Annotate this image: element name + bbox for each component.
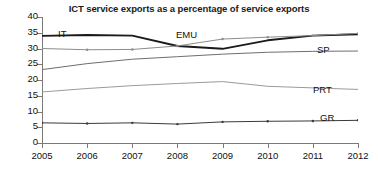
series-marker-gr (221, 121, 223, 123)
y-tick-label: 10 (14, 106, 38, 116)
x-tick-label: 2007 (112, 150, 152, 161)
series-line-sp (42, 51, 358, 70)
series-line-it (42, 34, 358, 49)
x-tick-label: 2011 (293, 150, 333, 161)
series-line-gr (42, 120, 358, 124)
x-tick-mark (268, 144, 269, 148)
x-tick-label: 2008 (157, 150, 197, 161)
series-marker-gr (176, 123, 178, 125)
series-marker-gr (312, 120, 314, 122)
x-tick-label: 2012 (338, 150, 378, 161)
x-tick-mark (132, 144, 133, 148)
x-tick-mark (42, 144, 43, 148)
series-marker-emu (221, 38, 223, 40)
x-tick-mark (177, 144, 178, 148)
x-tick-label: 2010 (248, 150, 288, 161)
series-label-gr: GR (320, 112, 334, 123)
series-marker-emu (267, 36, 269, 38)
series-marker-gr (86, 122, 88, 124)
series-marker-gr (131, 122, 133, 124)
y-tick-label: 0 (14, 137, 38, 147)
y-tick-label: 25 (14, 58, 38, 68)
chart-title: ICT service exports as a percentage of s… (0, 3, 378, 14)
x-tick-label: 2009 (203, 150, 243, 161)
series-marker-emu (176, 45, 178, 47)
series-marker-emu (131, 48, 133, 50)
x-tick-mark (358, 144, 359, 148)
series-line-prt (42, 82, 358, 92)
x-tick-label: 2005 (22, 150, 62, 161)
x-tick-mark (313, 144, 314, 148)
chart-container: ICT service exports as a percentage of s… (0, 0, 378, 177)
series-marker-emu (312, 34, 314, 36)
y-tick-label: 5 (14, 121, 38, 131)
series-marker-emu (86, 49, 88, 51)
y-tick-label: 30 (14, 43, 38, 53)
series-marker-gr (42, 122, 43, 124)
chart-plot-lines (42, 17, 358, 143)
series-label-emu: EMU (176, 29, 197, 40)
y-tick-label: 35 (14, 27, 38, 37)
series-label-sp: SP (317, 44, 330, 55)
series-marker-emu (42, 47, 43, 49)
x-tick-mark (87, 144, 88, 148)
y-tick-label: 15 (14, 90, 38, 100)
x-axis-line (42, 143, 359, 144)
series-marker-gr (357, 119, 358, 121)
series-marker-gr (267, 120, 269, 122)
y-tick-label: 40 (14, 11, 38, 21)
x-tick-mark (223, 144, 224, 148)
series-label-prt: PRT (313, 84, 332, 95)
series-label-it: IT (58, 28, 66, 39)
y-tick-label: 20 (14, 74, 38, 84)
x-tick-label: 2006 (67, 150, 107, 161)
